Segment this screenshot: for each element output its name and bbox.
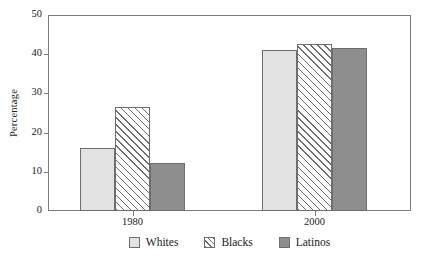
bar-whites-2000 bbox=[262, 50, 297, 211]
y-tick-mark bbox=[44, 133, 49, 134]
legend-swatch-icon bbox=[279, 237, 290, 248]
legend-label: Latinos bbox=[296, 236, 331, 248]
bar-whites-1980 bbox=[80, 148, 115, 211]
y-tick-label: 40 bbox=[14, 48, 42, 58]
legend-label: Blacks bbox=[221, 236, 252, 248]
legend-swatch-icon bbox=[129, 237, 140, 248]
legend-item-latinos[interactable]: Latinos bbox=[279, 236, 331, 248]
bar-latinos-1980 bbox=[150, 163, 185, 211]
y-tick-mark bbox=[44, 93, 49, 94]
y-axis-title: Percentage bbox=[8, 15, 24, 211]
y-tick-label: 20 bbox=[14, 127, 42, 137]
y-tick-label: 10 bbox=[14, 166, 42, 176]
legend-label: Whites bbox=[146, 236, 179, 248]
bar-latinos-2000 bbox=[332, 48, 367, 211]
y-tick-mark bbox=[44, 54, 49, 55]
chart-legend: WhitesBlacksLatinos bbox=[48, 236, 411, 248]
y-tick-label: 0 bbox=[14, 205, 42, 215]
y-tick-mark bbox=[44, 172, 49, 173]
y-tick-label: 30 bbox=[14, 87, 42, 97]
bar-blacks-1980 bbox=[115, 107, 150, 211]
bar-blacks-2000 bbox=[297, 44, 332, 211]
x-tick-label: 1980 bbox=[103, 216, 163, 227]
legend-item-whites[interactable]: Whites bbox=[129, 236, 179, 248]
bar-chart: Percentage 01020304050 19802000 WhitesBl… bbox=[0, 0, 422, 267]
y-tick-label: 50 bbox=[14, 9, 42, 19]
legend-swatch-icon bbox=[204, 237, 215, 248]
x-tick-label: 2000 bbox=[285, 216, 345, 227]
legend-item-blacks[interactable]: Blacks bbox=[204, 236, 252, 248]
